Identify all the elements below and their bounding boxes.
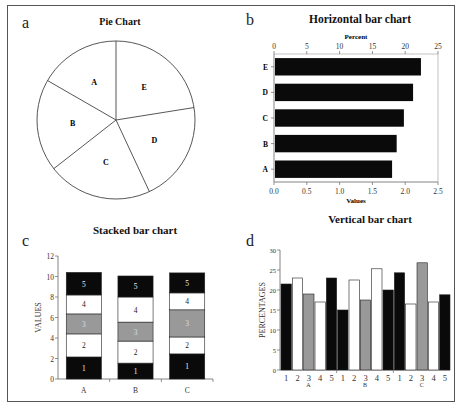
svg-text:B: B xyxy=(133,386,138,395)
svg-text:15: 15 xyxy=(369,42,377,51)
svg-text:1.5: 1.5 xyxy=(368,187,378,196)
svg-text:4: 4 xyxy=(431,373,436,383)
pie-slice-label: C xyxy=(103,158,109,167)
svg-text:1.0: 1.0 xyxy=(335,187,345,196)
pie-slice-label: E xyxy=(142,83,147,92)
vbar xyxy=(338,310,348,370)
vbar xyxy=(428,302,438,370)
svg-text:4: 4 xyxy=(82,300,86,309)
svg-text:2: 2 xyxy=(295,373,299,383)
svg-text:E: E xyxy=(263,63,268,72)
bar-C xyxy=(275,109,404,126)
svg-text:4: 4 xyxy=(50,334,54,343)
svg-text:2: 2 xyxy=(134,348,138,357)
vbar xyxy=(315,302,325,370)
horizontal-bar-chart: 0.00.51.01.52.02.50510152025PercentValue… xyxy=(232,0,464,207)
svg-text:1: 1 xyxy=(134,367,138,376)
svg-text:20: 20 xyxy=(270,287,277,294)
svg-text:C: C xyxy=(185,386,190,395)
vbar xyxy=(292,278,302,370)
svg-text:12: 12 xyxy=(47,252,55,261)
svg-text:4: 4 xyxy=(134,306,138,315)
bar-E xyxy=(275,58,421,75)
svg-text:C: C xyxy=(420,382,424,388)
svg-text:5: 5 xyxy=(134,282,138,291)
svg-text:5: 5 xyxy=(82,280,86,289)
svg-text:B: B xyxy=(263,140,268,149)
svg-text:5: 5 xyxy=(273,347,276,354)
svg-text:VALUES: VALUES xyxy=(34,302,43,333)
vbar xyxy=(304,294,314,370)
svg-text:0: 0 xyxy=(50,375,54,384)
stacked-bar-chart: 024681012VALUES12345A12345B12345C xyxy=(0,207,232,414)
svg-text:1: 1 xyxy=(185,362,189,371)
svg-text:0.5: 0.5 xyxy=(302,187,312,196)
vbar xyxy=(281,284,291,370)
pie-slice-label: B xyxy=(70,119,76,128)
pie-slice-label: A xyxy=(91,78,97,87)
svg-text:4: 4 xyxy=(375,373,380,383)
svg-text:PERCENTAGES: PERCENTAGES xyxy=(258,282,267,338)
svg-text:10: 10 xyxy=(270,327,277,334)
vbar xyxy=(360,300,370,370)
svg-text:2.5: 2.5 xyxy=(433,187,443,196)
svg-text:C: C xyxy=(263,114,268,123)
svg-text:1: 1 xyxy=(82,364,86,373)
svg-text:10: 10 xyxy=(47,273,55,282)
svg-text:4: 4 xyxy=(318,373,323,383)
svg-text:3: 3 xyxy=(134,328,138,337)
svg-text:2.0: 2.0 xyxy=(401,187,411,196)
svg-text:A: A xyxy=(81,386,87,395)
vbar xyxy=(440,295,450,370)
svg-text:10: 10 xyxy=(336,42,344,51)
vbar xyxy=(372,269,382,370)
vertical-bar-chart: 051015202530PERCENTAGES12345A12345B12345… xyxy=(232,207,464,414)
svg-text:25: 25 xyxy=(434,42,442,51)
bar-D xyxy=(275,84,413,101)
svg-text:0: 0 xyxy=(272,42,276,51)
bar-B xyxy=(275,135,397,152)
vbar xyxy=(406,304,416,370)
pie-chart: EDCBA xyxy=(0,0,232,207)
svg-text:4: 4 xyxy=(185,297,189,306)
svg-text:20: 20 xyxy=(401,42,409,51)
svg-text:2: 2 xyxy=(352,373,356,383)
vbar xyxy=(394,273,404,370)
svg-text:5: 5 xyxy=(305,42,309,51)
svg-text:B: B xyxy=(363,382,367,388)
vbar xyxy=(326,278,336,370)
vbar xyxy=(383,290,393,370)
svg-text:1: 1 xyxy=(397,373,401,383)
svg-text:0.0: 0.0 xyxy=(269,187,279,196)
vbar xyxy=(417,263,427,370)
svg-text:1: 1 xyxy=(341,373,345,383)
svg-text:15: 15 xyxy=(270,307,277,314)
pie-slice-label: D xyxy=(151,136,157,145)
vbar xyxy=(349,280,359,370)
svg-text:2: 2 xyxy=(50,355,54,364)
svg-text:5: 5 xyxy=(185,279,189,288)
svg-text:2: 2 xyxy=(409,373,413,383)
svg-text:5: 5 xyxy=(443,373,447,383)
svg-text:0: 0 xyxy=(273,367,276,374)
svg-text:6: 6 xyxy=(50,314,54,323)
svg-text:3: 3 xyxy=(185,319,189,328)
svg-text:2: 2 xyxy=(82,341,86,350)
svg-text:5: 5 xyxy=(386,373,390,383)
bar-A xyxy=(275,160,392,177)
svg-text:5: 5 xyxy=(329,373,333,383)
svg-text:8: 8 xyxy=(50,293,54,302)
svg-text:25: 25 xyxy=(270,267,277,274)
svg-text:A: A xyxy=(306,382,311,388)
svg-text:2: 2 xyxy=(185,341,189,350)
svg-text:D: D xyxy=(263,88,269,97)
svg-text:A: A xyxy=(263,165,269,174)
svg-text:30: 30 xyxy=(270,247,277,254)
svg-text:3: 3 xyxy=(82,320,86,329)
svg-text:Values: Values xyxy=(346,197,366,205)
svg-text:Percent: Percent xyxy=(345,33,368,41)
svg-text:1: 1 xyxy=(284,373,288,383)
